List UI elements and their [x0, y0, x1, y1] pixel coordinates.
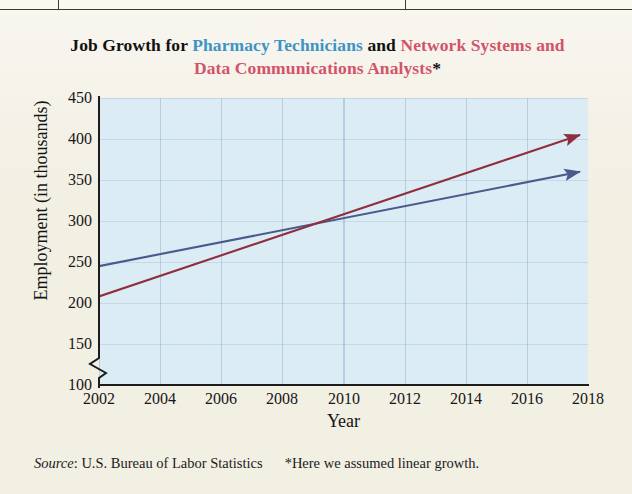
series-lines [99, 98, 588, 385]
x-axis-tick-labels: 2002 2004 2006 2008 2010 2012 2014 2016 … [0, 390, 632, 412]
footnote-source-word: Source [34, 455, 74, 471]
y-axis-title: Employment (in thousands) [31, 56, 52, 346]
footnote-source-rest: : U.S. Bureau of Labor Statistics [74, 455, 263, 471]
y-tick-300: 300 [48, 213, 92, 229]
series-line-pharmacy-technicians [99, 172, 580, 266]
x-axis-title: Year [99, 411, 588, 432]
series-line-network-analysts [99, 135, 580, 297]
x-axis-line [99, 384, 589, 386]
plot-area [99, 98, 588, 385]
x-tick-2010: 2010 [316, 390, 372, 408]
y-axis-line [98, 96, 100, 352]
y-tick-250: 250 [48, 254, 92, 270]
x-tick-2014: 2014 [438, 390, 494, 408]
y-tick-200: 200 [48, 295, 92, 311]
chart-footnote: Source: U.S. Bureau of Labor Statistics*… [34, 455, 614, 472]
chart-area: 450 400 350 300 250 200 150 100 2002 200… [0, 0, 632, 440]
x-tick-2002: 2002 [71, 390, 127, 408]
y-tick-450: 450 [48, 90, 92, 106]
x-tick-2018: 2018 [560, 390, 616, 408]
x-tick-2006: 2006 [193, 390, 249, 408]
y-tick-350: 350 [48, 172, 92, 188]
y-tick-400: 400 [48, 131, 92, 147]
x-tick-2016: 2016 [499, 390, 555, 408]
footnote-note: *Here we assumed linear growth. [285, 455, 479, 471]
y-tick-150: 150 [48, 336, 92, 352]
x-tick-2004: 2004 [132, 390, 188, 408]
x-tick-2008: 2008 [254, 390, 310, 408]
x-tick-2012: 2012 [377, 390, 433, 408]
